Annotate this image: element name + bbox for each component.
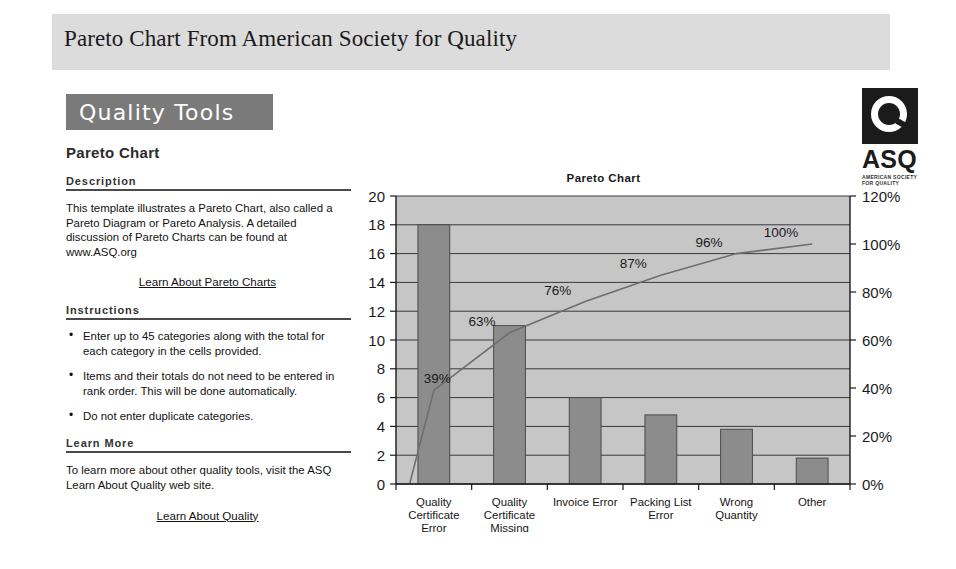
learn-more-link-row: Learn About Quality [66, 506, 349, 524]
y-axis-tick-label: 10 [368, 332, 385, 349]
info-panel: Quality Tools Pareto Chart Description T… [66, 94, 356, 524]
learn-more-heading: Learn More [66, 437, 351, 453]
chart-plot: 02468101214161820 0%20%40%60%80%100%120%… [356, 186, 956, 532]
cumulative-percent-label: 87% [620, 256, 647, 271]
y-axis-tick-label: 14 [368, 274, 385, 291]
cumulative-percent-label: 39% [424, 371, 451, 386]
list-item: Do not enter duplicate categories. [83, 409, 351, 423]
x-axis-category-label: Quantity [715, 509, 758, 521]
y-axis-tick-label: 8 [377, 360, 385, 377]
x-axis-category-label: Missing [490, 522, 529, 532]
bar [494, 326, 526, 484]
y-axis-tick-label: 18 [368, 216, 385, 233]
instructions-list: Enter up to 45 categories along with the… [66, 329, 356, 423]
instructions-heading: Instructions [66, 304, 351, 320]
y-axis-tick-label: 0 [377, 476, 385, 493]
y-axis-tick-label: 6 [377, 389, 385, 406]
x-axis-category-label: Quality [492, 496, 528, 508]
x-axis-category-label: Wrong [720, 496, 753, 508]
learn-about-quality-link[interactable]: Learn About Quality [157, 509, 259, 522]
y-axis-tick-label: 16 [368, 245, 385, 262]
page-title: Pareto Chart From American Society for Q… [64, 26, 517, 52]
chart-title: Pareto Chart [356, 172, 851, 184]
y2-axis-tick-label: 60% [862, 332, 892, 349]
x-axis-category-label: Invoice Error [553, 496, 618, 508]
list-item: Items and their totals do not need to be… [83, 369, 351, 398]
x-axis-category-label: Certificate [484, 509, 535, 521]
x-axis-category-label: Quality [416, 496, 452, 508]
asq-wordmark: ASQ [862, 147, 940, 172]
quality-tools-banner: Quality Tools [66, 94, 273, 130]
bar [796, 458, 828, 484]
quality-tools-banner-label: Quality Tools [79, 100, 234, 125]
cumulative-percent-label: 100% [764, 225, 799, 240]
y2-axis-tick-label: 0% [862, 476, 884, 493]
description-text: This template illustrates a Pareto Chart… [66, 201, 349, 259]
bar [645, 415, 677, 484]
y-axis-tick-label: 4 [377, 418, 385, 435]
y2-axis-tick-label: 20% [862, 428, 892, 445]
list-item: Enter up to 45 categories along with the… [83, 329, 351, 358]
description-link-row: Learn About Pareto Charts [66, 272, 349, 290]
learn-about-pareto-charts-link[interactable]: Learn About Pareto Charts [139, 275, 276, 288]
x-axis-category-label: Other [798, 496, 827, 508]
y2-axis-tick-label: 40% [862, 380, 892, 397]
bar [721, 429, 753, 484]
x-axis-category-label: Error [421, 522, 447, 532]
panel-subtitle: Pareto Chart [66, 144, 356, 161]
x-axis-category-label: Error [648, 509, 674, 521]
cumulative-percent-label: 63% [468, 314, 495, 329]
learn-more-text: To learn more about other quality tools,… [66, 463, 349, 492]
cumulative-percent-label: 96% [695, 235, 722, 250]
asq-q-logo-icon [862, 88, 918, 144]
y-axis-tick-label: 12 [368, 303, 385, 320]
y-axis-tick-label: 2 [377, 447, 385, 464]
cumulative-percent-label: 76% [544, 283, 571, 298]
y2-axis-tick-label: 80% [862, 284, 892, 301]
bar [418, 225, 450, 484]
x-axis-category-label: Packing List [630, 496, 692, 508]
bar [569, 398, 601, 484]
pareto-chart: Pareto Chart 02468101214161820 0%20%40%6… [356, 172, 956, 532]
x-axis-category-label: Certificate [408, 509, 459, 521]
y2-axis-tick-label: 100% [862, 236, 900, 253]
y2-axis-tick-label: 120% [862, 188, 900, 205]
description-heading: Description [66, 175, 351, 191]
y-axis-tick-label: 20 [368, 188, 385, 205]
